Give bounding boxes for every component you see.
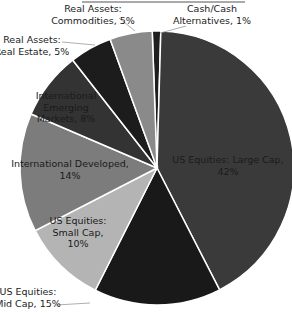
slice-label: Cash/CashAlternatives, 1% [173, 3, 251, 26]
leader-line [56, 303, 90, 305]
slice-label: Real Assets:Real Estate, 5% [0, 34, 69, 57]
slice-label: InternationalEmergingMarkets, 8% [36, 90, 97, 124]
slice-label: US Equities:Mid Cap, 15% [0, 286, 61, 309]
pie-chart: Cash/CashAlternatives, 1%US Equities: La… [0, 0, 292, 313]
slice-label: Real Assets:Commodities, 5% [51, 3, 135, 26]
